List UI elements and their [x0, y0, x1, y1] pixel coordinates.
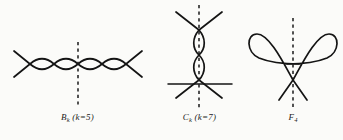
- caption-ck-paren: (k=7): [192, 112, 216, 122]
- bk-diagram-svg: [0, 0, 155, 112]
- caption-bk-paren: (k=5): [70, 112, 94, 122]
- diagram-panel-bk: Bk (k=5): [0, 0, 155, 140]
- ck-branch-left-top: [176, 12, 204, 55]
- diagram-panel-f4: F4: [243, 0, 343, 140]
- diagram-panel-ck: Ck (k=7): [152, 0, 247, 140]
- ck-branch-left-bottom: [176, 55, 204, 98]
- f4-tail-right: [293, 80, 307, 100]
- caption-ck: Ck (k=7): [152, 112, 247, 123]
- caption-bk: Bk (k=5): [0, 112, 155, 123]
- ck-branch-right-bottom: [194, 55, 222, 98]
- caption-f4: F4: [243, 112, 343, 123]
- ck-branch-right-top: [194, 12, 222, 55]
- f4-tail-left: [279, 80, 293, 100]
- f4-loop-right: [287, 34, 337, 80]
- f4-diagram-svg: [243, 0, 343, 112]
- f4-loop-left: [249, 34, 299, 80]
- figure-root: Bk (k=5) Ck (k=7): [0, 0, 343, 140]
- caption-f4-sub: 4: [294, 116, 297, 123]
- ck-diagram-svg: [152, 0, 247, 112]
